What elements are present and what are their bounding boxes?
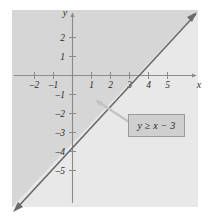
inequality-callout-label: y ≥ x − 3 bbox=[138, 120, 176, 131]
y-tick-label--3: –3 bbox=[55, 128, 66, 138]
x-tick-label--2: –2 bbox=[29, 80, 40, 90]
y-axis-label: y bbox=[62, 7, 68, 18]
x-tick-label--1: –1 bbox=[48, 80, 59, 90]
y-tick-label--5: –5 bbox=[55, 166, 66, 176]
plot-area: –2 –1 1 2 3 4 5 2 1 –1 –2 –3 –4 –5 x y bbox=[0, 0, 219, 223]
y-tick-label--2: –2 bbox=[55, 109, 66, 119]
x-tick-label-1: 1 bbox=[89, 80, 94, 90]
y-tick-label--1: –1 bbox=[55, 90, 66, 100]
y-tick-label-1: 1 bbox=[60, 52, 65, 62]
inequality-graph-figure: –2 –1 1 2 3 4 5 2 1 –1 –2 –3 –4 –5 x y y… bbox=[0, 0, 219, 223]
y-tick-label--4: –4 bbox=[55, 147, 66, 157]
inequality-callout-box: y ≥ x − 3 bbox=[128, 114, 185, 137]
x-axis-label: x bbox=[196, 79, 202, 90]
y-tick-label-2: 2 bbox=[60, 33, 65, 43]
x-tick-label-2: 2 bbox=[108, 80, 113, 90]
x-tick-label-4: 4 bbox=[146, 80, 151, 90]
x-tick-label-5: 5 bbox=[165, 80, 170, 90]
